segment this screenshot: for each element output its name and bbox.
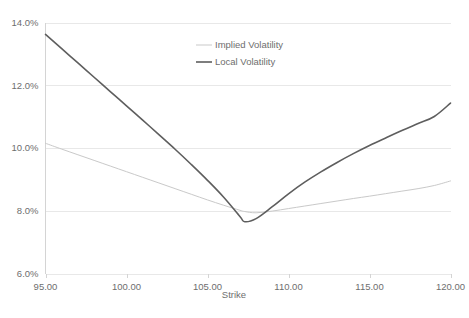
y-tick-label-3: 12.0% bbox=[12, 80, 39, 91]
x-tick-labels-group: 95.00100.00105.00110.00115.00120.00 bbox=[34, 281, 465, 292]
legend-label-0: Implied Volatility bbox=[215, 39, 283, 50]
series-line-implied-volatility bbox=[46, 143, 451, 213]
x-tick-label-3: 110.00 bbox=[274, 281, 302, 292]
x-tick-label-1: 100.00 bbox=[112, 281, 141, 292]
y-tick-label-1: 8.0% bbox=[17, 205, 39, 216]
y-tick-label-0: 6.0% bbox=[17, 268, 39, 279]
x-tick-label-2: 105.00 bbox=[193, 281, 222, 292]
legend-item-local-volatility[interactable]: Local Volatility bbox=[196, 56, 275, 67]
x-axis-title: Strike bbox=[222, 289, 246, 300]
volatility-smile-chart: 6.0%8.0%10.0%12.0%14.0% 95.00100.00105.0… bbox=[0, 0, 469, 318]
legend-item-implied-volatility[interactable]: Implied Volatility bbox=[196, 39, 283, 50]
legend-group[interactable]: Implied VolatilityLocal Volatility bbox=[196, 39, 283, 67]
chart-container: 6.0%8.0%10.0%12.0%14.0% 95.00100.00105.0… bbox=[0, 0, 469, 318]
y-tick-label-2: 10.0% bbox=[12, 142, 39, 153]
x-tick-label-0: 95.00 bbox=[34, 281, 58, 292]
y-tick-label-4: 14.0% bbox=[12, 17, 39, 28]
x-tick-label-4: 115.00 bbox=[355, 281, 383, 292]
legend-label-1: Local Volatility bbox=[215, 56, 275, 67]
x-tick-label-5: 120.00 bbox=[436, 281, 465, 292]
y-tick-labels-group: 6.0%8.0%10.0%12.0%14.0% bbox=[12, 17, 39, 279]
